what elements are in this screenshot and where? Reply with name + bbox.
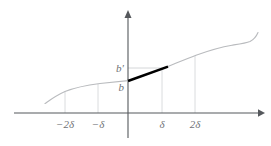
x-tick-labels: −2δ −δ δ 2δ: [56, 118, 201, 130]
vertical-gridlines: [65, 56, 195, 113]
tick-label-minus-delta: −δ: [92, 118, 105, 130]
axes: [14, 10, 265, 138]
b-prime-label: b′: [116, 62, 125, 74]
tick-label-delta: δ: [159, 118, 165, 130]
function-graph-figure: −2δ −δ δ 2δ b′ b: [0, 0, 271, 146]
b-label: b: [119, 81, 125, 93]
y-value-labels: b′ b: [116, 62, 125, 93]
tick-label-2delta: 2δ: [190, 118, 202, 130]
tick-label-minus-2delta: −2δ: [56, 118, 75, 130]
y-axis-arrowhead: [125, 10, 132, 18]
graph-canvas: −2δ −δ δ 2δ b′ b: [0, 0, 271, 146]
x-axis-arrowhead: [258, 109, 265, 116]
